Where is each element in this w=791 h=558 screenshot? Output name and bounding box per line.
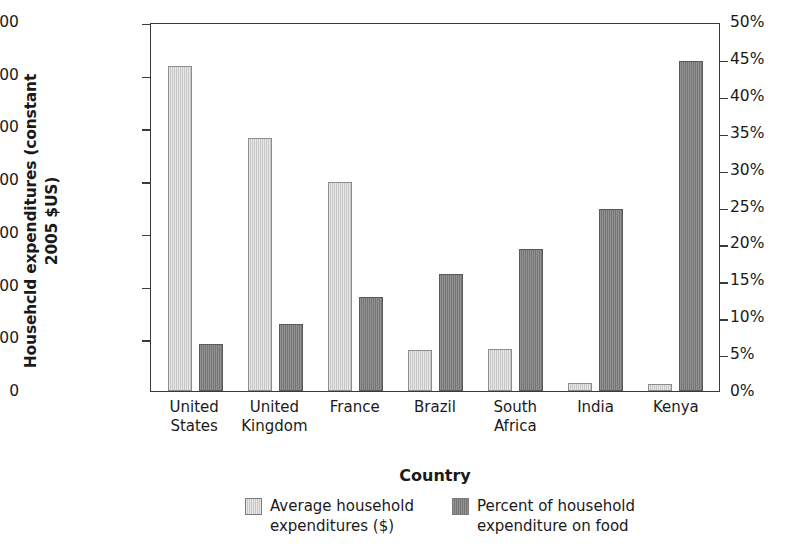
- bar[interactable]: [359, 297, 383, 391]
- legend-item-label: Average household expenditures ($): [270, 496, 414, 536]
- y-axis-tick-label-right: 5%: [730, 347, 755, 363]
- y-axis-tick-label-left: 0: [9, 384, 19, 400]
- y-axis-tick-label-right: 25%: [730, 200, 764, 216]
- y-axis-tick-left: [142, 77, 151, 78]
- y-axis-tick-label-right: 30%: [730, 163, 764, 179]
- bar[interactable]: [488, 349, 512, 391]
- bar[interactable]: [648, 384, 672, 391]
- bar-group: [155, 24, 235, 391]
- legend-item[interactable]: Percent of household expenditure on food: [452, 496, 635, 536]
- y-axis-tick-right: [719, 209, 728, 210]
- bar[interactable]: [328, 182, 352, 391]
- y-axis-tick-right: [719, 135, 728, 136]
- legend-item-label: Percent of household expenditure on food: [477, 496, 635, 536]
- y-axis-tick-left: [142, 182, 151, 183]
- bar[interactable]: [408, 350, 432, 391]
- bar-groups: [151, 24, 719, 391]
- y-axis-tick-label-right: 45%: [730, 52, 764, 68]
- x-axis-category-label: Brazil: [395, 398, 475, 436]
- y-axis-tick-right: [719, 245, 728, 246]
- bar-group: [635, 24, 715, 391]
- y-axis-tick-left: [142, 235, 151, 236]
- x-axis-title: Country: [150, 466, 720, 485]
- y-axis-tick-label-right: 20%: [730, 236, 764, 252]
- y-axis-tick-left: [142, 24, 151, 25]
- bar[interactable]: [519, 249, 543, 391]
- y-axis-tick-label-left: 35,000: [0, 15, 19, 31]
- y-axis-tick-right: [719, 319, 728, 320]
- y-axis-tick-label-right: 50%: [730, 15, 764, 31]
- x-axis-category-label: India: [555, 398, 635, 436]
- bar-group: [395, 24, 475, 391]
- x-axis-category-label: South Africa: [475, 398, 555, 436]
- y-axis-tick-right: [719, 356, 728, 357]
- y-axis-tick-label-left: 30,000: [0, 68, 19, 84]
- chart-legend: Average household expenditures ($)Percen…: [150, 496, 730, 536]
- bar[interactable]: [168, 66, 192, 391]
- y-axis-tick-label-left: 15,000: [0, 226, 19, 242]
- y-axis-tick-label-left: 25,000: [0, 120, 19, 136]
- bar[interactable]: [439, 274, 463, 391]
- y-axis-tick-label-right: 15%: [730, 273, 764, 289]
- y-axis-tick-label-left: 10,000: [0, 279, 19, 295]
- bar[interactable]: [199, 344, 223, 391]
- x-axis-category-label: France: [315, 398, 395, 436]
- x-axis-category-labels: United StatesUnited KingdomFranceBrazilS…: [150, 398, 720, 436]
- y-axis-tick-label-left: 5,000: [0, 331, 19, 347]
- dark-gray-swatch: [452, 498, 469, 515]
- y-axis-tick-left: [142, 340, 151, 341]
- y-axis-tick-right: [719, 172, 728, 173]
- bar-group: [315, 24, 395, 391]
- legend-item[interactable]: Average household expenditures ($): [245, 496, 414, 536]
- y-axis-tick-label-right: 10%: [730, 310, 764, 326]
- y-axis-tick-label-right: 40%: [730, 89, 764, 105]
- y-axis-tick-right: [719, 98, 728, 99]
- bar[interactable]: [679, 61, 703, 391]
- y-axis-title: Househcld expenditures (constant 2005 $U…: [21, 61, 63, 381]
- bar[interactable]: [599, 209, 623, 391]
- bar[interactable]: [248, 138, 272, 391]
- bar-group: [475, 24, 555, 391]
- y-axis-tick-left: [142, 129, 151, 130]
- y-axis-tick-label-left: 20,000: [0, 173, 19, 189]
- bar[interactable]: [279, 324, 303, 391]
- y-axis-tick-label-right: 35%: [730, 126, 764, 142]
- y-axis-tick-left: [142, 288, 151, 289]
- light-gray-swatch: [245, 498, 262, 515]
- y-axis-tick-label-right: 0%: [730, 384, 755, 400]
- x-axis-category-label: United Kingdom: [234, 398, 314, 436]
- bar-group: [555, 24, 635, 391]
- bar-group: [235, 24, 315, 391]
- chart-figure: Househcld expenditures (constant 2005 $U…: [0, 0, 791, 558]
- y-axis-tick-right: [719, 61, 728, 62]
- plot-area: [150, 23, 720, 392]
- y-axis-tick-right: [719, 282, 728, 283]
- x-axis-category-label: United States: [154, 398, 234, 436]
- bar[interactable]: [568, 383, 592, 391]
- x-axis-category-label: Kenya: [636, 398, 716, 436]
